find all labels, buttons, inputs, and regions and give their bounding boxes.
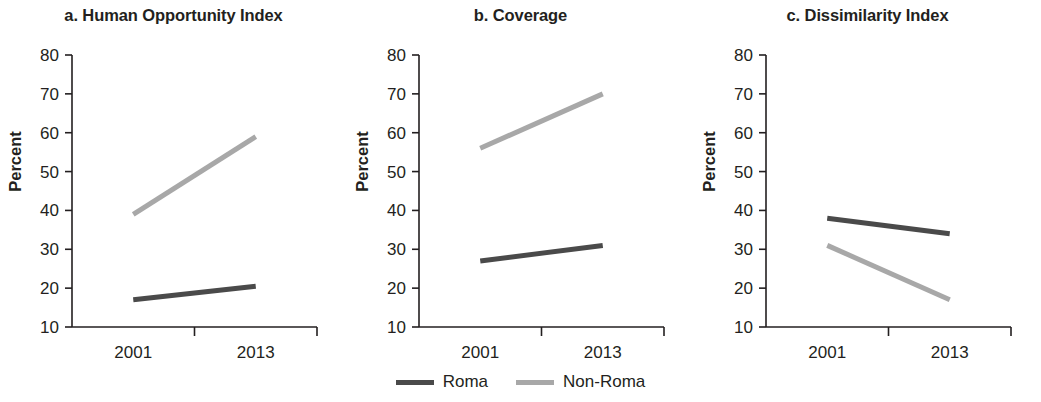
x-axis-tick-label: 2001 [808,343,846,362]
y-axis-tick-label: 50 [40,163,59,182]
y-axis-tick-label: 30 [40,240,59,259]
legend-swatch-roma [396,380,434,385]
y-axis-tick-label: 70 [734,85,753,104]
y-axis-tick-label: 30 [734,240,753,259]
y-axis-tick-label: 20 [734,279,753,298]
y-axis-tick-label: 10 [40,318,59,337]
series-line-roma [480,245,603,261]
y-axis-tick-label: 80 [387,46,406,65]
figure-three-panel-line-charts: a. Human Opportunity Index Percent 10203… [0,0,1041,402]
panel-a-plot: 102030405060708020012013 [0,0,347,362]
y-axis-tick-label: 60 [40,124,59,143]
y-axis-tick-label: 70 [387,85,406,104]
y-axis-tick-label: 70 [40,85,59,104]
x-axis-tick-label: 2001 [461,343,499,362]
y-axis-tick-label: 40 [387,201,406,220]
legend-entry-non-roma: Non-Roma [516,372,645,392]
legend-label-non-roma: Non-Roma [563,372,645,392]
y-axis-tick-label: 10 [387,318,406,337]
y-axis-tick-label: 80 [40,46,59,65]
y-axis-tick-label: 20 [40,279,59,298]
y-axis-tick-label: 60 [734,124,753,143]
y-axis-tick-label: 10 [734,318,753,337]
y-axis-tick-label: 40 [40,201,59,220]
x-axis-tick-label: 2001 [114,343,152,362]
y-axis-tick-label: 20 [387,279,406,298]
x-axis-tick-label: 2013 [237,343,275,362]
x-axis-tick-label: 2013 [584,343,622,362]
panel-b: b. Coverage Percent 10203040506070802001… [347,0,694,362]
series-line-non-roma [133,137,256,215]
legend-entry-roma: Roma [396,372,488,392]
y-axis-tick-label: 50 [387,163,406,182]
legend-swatch-non-roma [516,380,554,385]
y-axis-tick-label: 50 [734,163,753,182]
panel-c-plot: 102030405060708020012013 [694,0,1041,362]
panel-row: a. Human Opportunity Index Percent 10203… [0,0,1041,362]
x-axis-tick-label: 2013 [931,343,969,362]
y-axis-tick-label: 60 [387,124,406,143]
panel-c: c. Dissimilarity Index Percent 102030405… [694,0,1041,362]
y-axis-tick-label: 30 [387,240,406,259]
panel-b-plot: 102030405060708020012013 [347,0,694,362]
series-line-non-roma [827,245,950,299]
panel-a: a. Human Opportunity Index Percent 10203… [0,0,347,362]
series-line-roma [133,286,256,300]
legend-label-roma: Roma [443,372,488,392]
y-axis-tick-label: 80 [734,46,753,65]
y-axis-tick-label: 40 [734,201,753,220]
series-line-roma [827,218,950,234]
series-line-non-roma [480,94,603,148]
chart-legend: Roma Non-Roma [0,362,1041,402]
